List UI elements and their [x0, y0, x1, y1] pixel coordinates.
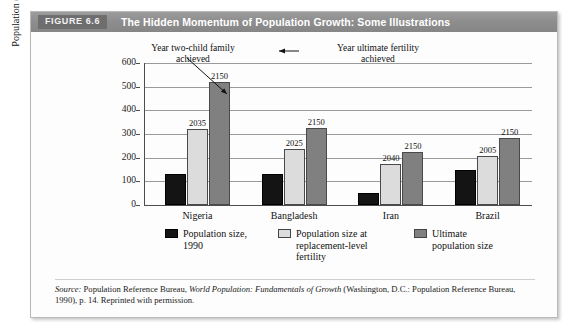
bar-value-label: 2150	[397, 142, 428, 151]
y-axis-tick-mark	[136, 158, 140, 159]
bar-value-label: 2150	[494, 128, 525, 137]
legend-swatch	[165, 229, 178, 238]
annotation-ultimate-line2: achieved	[361, 54, 395, 64]
annotation-two-child-line1: Year two-child family	[151, 43, 234, 53]
y-axis-tick-label: 100	[122, 177, 136, 187]
y-axis-tick-label: 400	[122, 106, 136, 116]
bar	[455, 170, 476, 206]
source-divider	[55, 279, 535, 280]
chart-legend: Population size,1990Population size atre…	[31, 228, 559, 278]
bar-group: 20252150	[262, 63, 327, 205]
y-axis-tick-label: 500	[122, 82, 136, 92]
source-note: Source: Population Reference Bureau, Wor…	[55, 284, 539, 306]
bar-chart: Population (millions) 010020030040050060…	[31, 32, 559, 232]
annotation-two-child-family: Year two-child family achieved	[123, 43, 263, 65]
bar	[499, 138, 520, 205]
annotation-ultimate-line1: Year ultimate fertility	[337, 43, 419, 53]
bar	[380, 164, 401, 205]
source-label: Source:	[55, 284, 81, 294]
legend-label: Ultimatepopulation size	[432, 228, 493, 251]
legend-label: Population size atreplacement-levelferti…	[296, 228, 368, 263]
plot-area: Nigeria20352150Bangladesh20252150Iran204…	[144, 63, 532, 206]
bar-group: 20402150	[358, 63, 423, 205]
y-axis-tick-label: 200	[122, 153, 136, 163]
legend-item: Ultimatepopulation size	[414, 228, 493, 251]
bar-group: 20052150	[455, 63, 520, 205]
y-axis-tick-mark	[136, 134, 140, 135]
source-italic-title: World Population: Fundamentals of Growth	[189, 284, 341, 294]
y-axis-tick-mark	[136, 110, 140, 111]
y-axis-tick-mark	[136, 205, 140, 206]
y-axis-title: Population (millions)	[10, 0, 21, 84]
bar-value-label: 2150	[204, 72, 235, 81]
bar-group: 20352150	[165, 63, 230, 205]
x-axis-category-label: Brazil	[435, 210, 540, 221]
bar	[165, 174, 186, 205]
figure-number-chip: FIGURE 6.6	[38, 15, 107, 29]
figure-header: FIGURE 6.6 The Hidden Momentum of Popula…	[31, 12, 557, 32]
bar	[358, 193, 379, 205]
bar	[209, 82, 230, 205]
y-axis-tick-mark	[136, 87, 140, 88]
bar-value-label: 2150	[301, 118, 332, 127]
figure-title: The Hidden Momentum of Population Growth…	[121, 16, 450, 28]
x-axis-category-label: Iran	[338, 210, 443, 221]
x-axis-category-label: Bangladesh	[242, 210, 347, 221]
bar	[306, 128, 327, 205]
legend-swatch	[278, 229, 291, 238]
legend-item: Population size atreplacement-levelferti…	[278, 228, 368, 263]
y-axis-tick-mark	[136, 181, 140, 182]
annotation-two-child-line2: achieved	[176, 54, 210, 64]
bar	[262, 174, 283, 205]
legend-item: Population size,1990	[165, 228, 247, 251]
legend-swatch	[414, 229, 427, 238]
figure-body: Population (millions) 010020030040050060…	[31, 32, 557, 317]
source-text-1: Population Reference Bureau,	[81, 284, 189, 294]
y-axis-tick-labels: 0100200300400500600	[109, 63, 140, 205]
bar	[284, 149, 305, 205]
figure-container: FIGURE 6.6 The Hidden Momentum of Popula…	[30, 11, 558, 318]
x-axis-category-label: Nigeria	[145, 210, 250, 221]
bar	[402, 152, 423, 205]
bar	[477, 156, 498, 205]
bar	[187, 129, 208, 205]
y-axis-tick-label: 300	[122, 129, 136, 139]
legend-label: Population size,1990	[183, 228, 247, 251]
annotation-ultimate-fertility: Year ultimate fertility achieved	[303, 43, 453, 65]
